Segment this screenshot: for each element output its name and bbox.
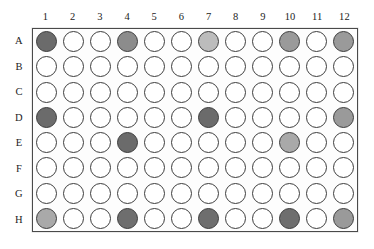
well-E5[interactable] [144,132,165,153]
well-B12[interactable] [333,56,354,77]
well-H2[interactable] [63,208,84,229]
well-F5[interactable] [144,157,165,178]
well-F8[interactable] [225,157,246,178]
well-F4[interactable] [117,157,138,178]
well-A12[interactable] [333,31,354,52]
well-B3[interactable] [90,56,111,77]
well-D5[interactable] [144,107,165,128]
well-B5[interactable] [144,56,165,77]
well-H5[interactable] [144,208,165,229]
well-G4[interactable] [117,183,138,204]
well-B8[interactable] [225,56,246,77]
well-C12[interactable] [333,82,354,103]
well-E11[interactable] [306,132,327,153]
well-A8[interactable] [225,31,246,52]
well-D7[interactable] [198,107,219,128]
well-H4[interactable] [117,208,138,229]
well-G8[interactable] [225,183,246,204]
well-B10[interactable] [279,56,300,77]
well-D1[interactable] [36,107,57,128]
well-E6[interactable] [171,132,192,153]
well-G11[interactable] [306,183,327,204]
well-G3[interactable] [90,183,111,204]
well-B2[interactable] [63,56,84,77]
well-A3[interactable] [90,31,111,52]
well-H8[interactable] [225,208,246,229]
well-G12[interactable] [333,183,354,204]
well-D3[interactable] [90,107,111,128]
well-H9[interactable] [252,208,273,229]
well-A4[interactable] [117,31,138,52]
well-E1[interactable] [36,132,57,153]
well-H3[interactable] [90,208,111,229]
well-F9[interactable] [252,157,273,178]
well-F11[interactable] [306,157,327,178]
well-E9[interactable] [252,132,273,153]
well-E10[interactable] [279,132,300,153]
well-C3[interactable] [90,82,111,103]
well-H11[interactable] [306,208,327,229]
well-A10[interactable] [279,31,300,52]
well-A7[interactable] [198,31,219,52]
well-G9[interactable] [252,183,273,204]
well-D9[interactable] [252,107,273,128]
well-H12[interactable] [333,208,354,229]
well-C4[interactable] [117,82,138,103]
well-F1[interactable] [36,157,57,178]
well-C7[interactable] [198,82,219,103]
well-E2[interactable] [63,132,84,153]
well-B7[interactable] [198,56,219,77]
well-D10[interactable] [279,107,300,128]
well-C9[interactable] [252,82,273,103]
well-cell [141,54,168,79]
well-C1[interactable] [36,82,57,103]
well-G1[interactable] [36,183,57,204]
well-B1[interactable] [36,56,57,77]
well-F3[interactable] [90,157,111,178]
well-D11[interactable] [306,107,327,128]
well-C6[interactable] [171,82,192,103]
well-G2[interactable] [63,183,84,204]
well-B11[interactable] [306,56,327,77]
well-H1[interactable] [36,208,57,229]
well-C11[interactable] [306,82,327,103]
column-label-7: 7 [195,8,222,26]
well-D12[interactable] [333,107,354,128]
well-E8[interactable] [225,132,246,153]
well-C10[interactable] [279,82,300,103]
well-E12[interactable] [333,132,354,153]
well-B4[interactable] [117,56,138,77]
well-A1[interactable] [36,31,57,52]
well-F2[interactable] [63,157,84,178]
well-H6[interactable] [171,208,192,229]
well-C5[interactable] [144,82,165,103]
well-A6[interactable] [171,31,192,52]
well-E7[interactable] [198,132,219,153]
well-B6[interactable] [171,56,192,77]
well-A11[interactable] [306,31,327,52]
well-G7[interactable] [198,183,219,204]
well-cell [195,155,222,180]
well-G6[interactable] [171,183,192,204]
well-G10[interactable] [279,183,300,204]
well-F12[interactable] [333,157,354,178]
well-cell [141,29,168,54]
well-E3[interactable] [90,132,111,153]
well-C2[interactable] [63,82,84,103]
well-D2[interactable] [63,107,84,128]
well-F10[interactable] [279,157,300,178]
well-C8[interactable] [225,82,246,103]
well-D4[interactable] [117,107,138,128]
well-A5[interactable] [144,31,165,52]
well-H10[interactable] [279,208,300,229]
well-D6[interactable] [171,107,192,128]
well-H7[interactable] [198,208,219,229]
well-B9[interactable] [252,56,273,77]
well-D8[interactable] [225,107,246,128]
well-G5[interactable] [144,183,165,204]
well-A2[interactable] [63,31,84,52]
well-A9[interactable] [252,31,273,52]
well-F7[interactable] [198,157,219,178]
well-F6[interactable] [171,157,192,178]
well-E4[interactable] [117,132,138,153]
